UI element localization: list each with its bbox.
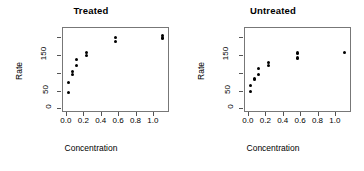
y-axis-tick <box>57 108 61 109</box>
y-axis-tick <box>57 37 61 38</box>
y-axis-tick-label-text: 50 <box>41 85 50 94</box>
y-axis-tick <box>239 37 243 38</box>
panel-untreated: Untreated 0501500.00.20.40.60.81.0 Rate … <box>182 0 364 171</box>
y-axis-tick <box>239 91 243 92</box>
x-axis-tick-label: 1.0 <box>140 116 166 125</box>
plot-points-untreated <box>245 28 350 111</box>
plot-area-untreated <box>244 27 351 112</box>
data-point <box>257 67 260 70</box>
data-point <box>67 91 70 94</box>
x-axis-title-untreated: Concentration <box>182 143 364 153</box>
y-axis-tick-label-text: 150 <box>39 47 48 60</box>
y-axis-tick <box>239 55 243 56</box>
y-axis-title-treated-text: Rate <box>14 62 24 80</box>
y-axis-title-untreated-text: Rate <box>196 62 206 80</box>
y-axis-tick <box>57 91 61 92</box>
data-point <box>75 58 78 61</box>
y-axis-tick-label: 0 <box>182 102 232 111</box>
y-axis-tick-label-text: 150 <box>221 47 230 60</box>
x-axis-title-treated: Concentration <box>0 143 182 153</box>
panel-title-untreated: Untreated <box>182 5 364 16</box>
data-point <box>249 84 252 87</box>
data-point <box>71 73 74 76</box>
y-axis-tick-label-text: 0 <box>225 105 234 109</box>
data-point <box>249 90 252 93</box>
y-axis-tick <box>57 73 61 74</box>
y-axis-tick <box>239 108 243 109</box>
data-point <box>296 56 299 59</box>
y-axis-title-untreated: Rate <box>194 54 208 88</box>
figure-container: Treated 0501500.00.20.40.60.81.0 Rate Co… <box>0 0 364 171</box>
data-point <box>75 64 78 67</box>
plot-area-treated <box>62 27 169 112</box>
y-axis-tick-label-text: 0 <box>43 105 52 109</box>
data-point <box>114 40 117 43</box>
data-point <box>257 73 260 76</box>
data-point <box>343 51 346 54</box>
panel-treated: Treated 0501500.00.20.40.60.81.0 Rate Co… <box>0 0 182 171</box>
data-point <box>67 81 70 84</box>
data-point <box>161 36 164 39</box>
data-point <box>71 70 74 73</box>
y-axis-tick-label: 0 <box>0 102 50 111</box>
y-axis-title-treated: Rate <box>12 54 26 88</box>
plot-points-treated <box>63 28 168 111</box>
x-axis-tick-label: 1.0 <box>322 116 348 125</box>
panel-title-treated: Treated <box>0 5 182 16</box>
data-point <box>114 36 117 39</box>
y-axis-tick <box>57 55 61 56</box>
data-point <box>253 77 256 80</box>
data-point <box>85 54 88 57</box>
y-axis-tick-label-text: 50 <box>223 85 232 94</box>
y-axis-tick <box>239 73 243 74</box>
data-point <box>296 51 299 54</box>
data-point <box>267 64 270 67</box>
